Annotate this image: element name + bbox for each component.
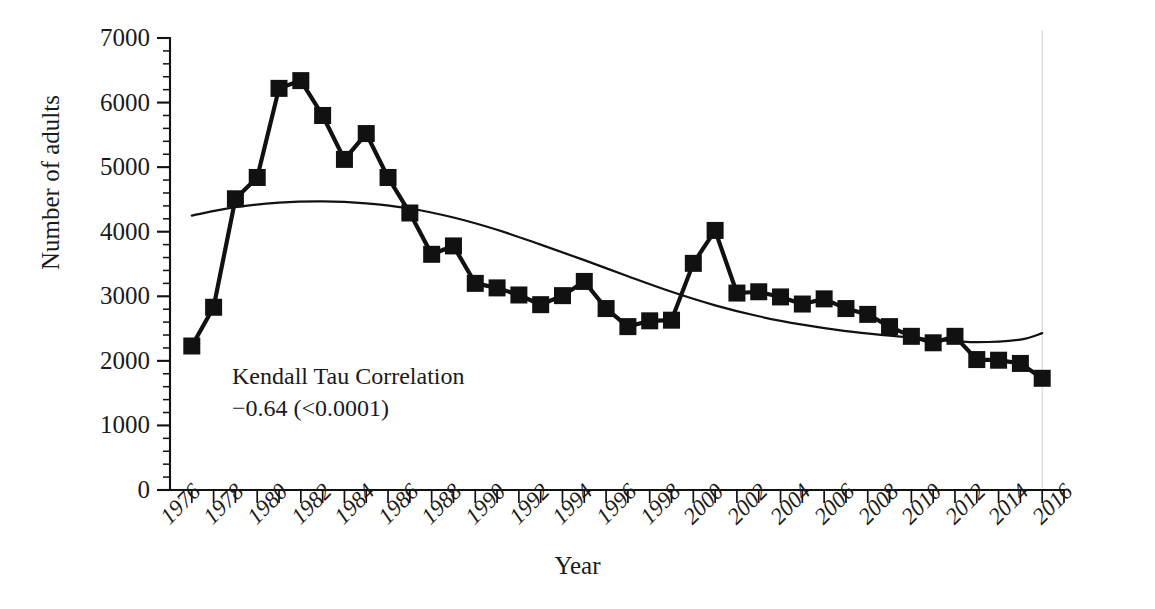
data-point-marker: [292, 72, 309, 89]
data-point-marker: [946, 328, 963, 345]
data-point-marker: [401, 204, 418, 221]
trend-line-path: [192, 201, 1042, 342]
data-point-marker: [641, 312, 658, 329]
data-point-marker: [598, 300, 615, 317]
data-point-marker: [685, 255, 702, 272]
data-point-marker: [249, 169, 266, 186]
data-point-marker: [816, 290, 833, 307]
data-point-marker: [423, 246, 440, 263]
data-point-marker: [903, 328, 920, 345]
data-point-marker: [881, 318, 898, 335]
data-point-marker: [358, 125, 375, 142]
data-point-marker: [728, 285, 745, 302]
data-point-marker: [619, 318, 636, 335]
x-axis-title: Year: [0, 553, 1155, 578]
data-point-marker: [859, 306, 876, 323]
data-point-marker: [314, 107, 331, 124]
y-axis-tick-label: 3000: [20, 283, 150, 308]
y-axis-title: Number of adults: [38, 95, 63, 270]
data-point-marker: [794, 296, 811, 313]
data-point-marker: [837, 300, 854, 317]
data-point-marker: [467, 275, 484, 292]
y-axis-tick-label: 7000: [20, 25, 150, 50]
data-point-marker: [750, 283, 767, 300]
data-point-marker: [925, 334, 942, 351]
kendall-tau-line2: −0.64 (<0.0001): [232, 392, 464, 424]
y-axis-tick-label: 2000: [20, 348, 150, 373]
data-point-marker: [1034, 370, 1051, 387]
data-point-marker: [990, 352, 1007, 369]
trend-line-series: [192, 201, 1042, 342]
chart-figure: 01000200030004000500060007000 1976197819…: [0, 0, 1155, 609]
axes: [157, 30, 1064, 503]
data-point-marker: [205, 299, 222, 316]
y-axis-tick-label: 1000: [20, 412, 150, 437]
data-point-marker: [554, 287, 571, 304]
data-point-marker: [489, 279, 506, 296]
data-point-marker: [576, 273, 593, 290]
data-point-marker: [532, 296, 549, 313]
kendall-tau-annotation: Kendall Tau Correlation −0.64 (<0.0001): [232, 360, 464, 425]
data-point-marker: [707, 222, 724, 239]
data-point-marker: [380, 169, 397, 186]
kendall-tau-line1: Kendall Tau Correlation: [232, 360, 464, 392]
data-point-marker: [227, 190, 244, 207]
data-point-marker: [968, 351, 985, 368]
data-point-marker: [336, 151, 353, 168]
data-point-marker: [445, 237, 462, 254]
y-axis-tick-label: 0: [20, 477, 150, 502]
data-point-marker: [510, 286, 527, 303]
data-point-marker: [271, 80, 288, 97]
data-point-marker: [772, 288, 789, 305]
data-point-marker: [663, 312, 680, 329]
data-point-marker: [183, 338, 200, 355]
data-point-marker: [1012, 355, 1029, 372]
